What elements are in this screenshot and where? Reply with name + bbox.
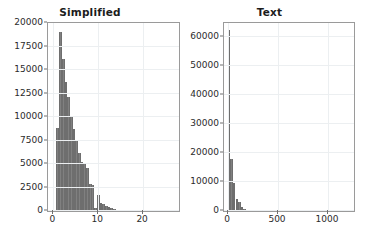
gridline-horizontal <box>224 123 354 124</box>
plot-area-simplified <box>47 22 180 212</box>
plot-area-text <box>223 22 355 212</box>
y-axis-tick-label: 12500 <box>14 88 43 98</box>
y-axis-tick-label: 10000 <box>14 111 43 121</box>
y-axis-tick-label: 30000 <box>190 118 219 128</box>
y-axis-tick-label: 5000 <box>20 158 43 168</box>
y-axis-tick-label: 15000 <box>14 64 43 74</box>
gridline-vertical <box>278 23 279 211</box>
gridline-horizontal <box>48 163 179 164</box>
chart-panel-simplified: Simplified 02500500075001000012500150001… <box>0 0 190 245</box>
gridline-vertical <box>328 23 329 211</box>
gridline-horizontal <box>48 116 179 117</box>
y-axis-tick-label: 50000 <box>190 60 219 70</box>
gridline-horizontal <box>224 152 354 153</box>
gridline-horizontal <box>224 36 354 37</box>
gridline-horizontal <box>48 22 179 23</box>
gridline-horizontal <box>224 65 354 66</box>
gridline-horizontal <box>224 181 354 182</box>
y-axis-tick-label: 20000 <box>190 147 219 157</box>
x-axis-tick-label: 0 <box>224 214 230 224</box>
histogram-bar <box>91 185 94 211</box>
gridline-horizontal <box>48 140 179 141</box>
gridline-horizontal <box>48 46 179 47</box>
gridline-horizontal <box>48 187 179 188</box>
gridline-vertical <box>228 23 229 211</box>
chart-panel-text: Text 01000020000300004000050000600000500… <box>190 0 367 245</box>
x-axis-tick-label: 500 <box>268 214 285 224</box>
y-axis-tick-label: 40000 <box>190 89 219 99</box>
gridline-horizontal <box>48 210 179 211</box>
histogram-bars-simplified <box>48 23 179 211</box>
chart-title-text: Text <box>181 6 358 18</box>
gridline-vertical <box>143 23 144 211</box>
y-axis-tick-label: 7500 <box>20 135 43 145</box>
gridline-horizontal <box>48 69 179 70</box>
y-axis-tick-label: 0 <box>213 205 219 215</box>
gridline-horizontal <box>224 210 354 211</box>
x-axis-tick-label: 1000 <box>316 214 339 224</box>
gridline-vertical <box>98 23 99 211</box>
figure-canvas: Simplified 02500500075001000012500150001… <box>0 0 367 245</box>
y-axis-tick-label: 0 <box>37 205 43 215</box>
y-axis-tick-label: 17500 <box>14 41 43 51</box>
gridline-vertical <box>53 23 54 211</box>
x-axis-tick-label: 10 <box>92 214 103 224</box>
chart-title-simplified: Simplified <box>0 6 185 18</box>
y-axis-tick-label: 60000 <box>190 31 219 41</box>
gridline-horizontal <box>48 93 179 94</box>
gridline-horizontal <box>224 94 354 95</box>
y-axis-tick-label: 20000 <box>14 17 43 27</box>
x-axis-tick-label: 20 <box>136 214 147 224</box>
y-axis-tick-label: 10000 <box>190 176 219 186</box>
histogram-bars-text <box>224 23 354 211</box>
y-axis-tick-label: 2500 <box>20 182 43 192</box>
x-axis-tick-label: 0 <box>50 214 56 224</box>
